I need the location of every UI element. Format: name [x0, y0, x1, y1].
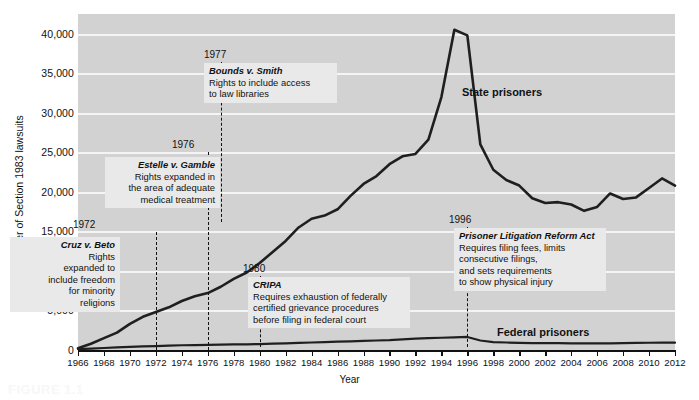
figure-caption: FIGURE 1.1 [8, 382, 84, 397]
gridline [78, 34, 675, 36]
gridline [78, 113, 675, 115]
x-tick-label: 1976 [197, 357, 218, 368]
event-annotation-bounds: Bounds v. SmithRights to include accesst… [204, 63, 337, 103]
x-tick [571, 350, 572, 356]
event-marker-line-cruz [156, 232, 157, 350]
x-tick [493, 350, 494, 356]
event-title-plra: Prisoner Litigation Reform Act [459, 230, 601, 242]
event-annotation-plra: Prisoner Litigation Reform ActRequires f… [454, 228, 606, 291]
x-tick-label: 1982 [275, 357, 296, 368]
x-tick [415, 350, 416, 356]
series-label-state-prisoners: State prisoners [462, 86, 542, 98]
x-tick-label: 1998 [483, 357, 504, 368]
x-tick-label: 2012 [664, 357, 685, 368]
event-year-cruz: 1972 [73, 219, 95, 230]
x-tick [234, 350, 235, 356]
x-tick-label: 1968 [93, 357, 114, 368]
event-body-line: before filing in federal court [253, 314, 405, 326]
x-tick-label: 2000 [509, 357, 530, 368]
y-tick-label: 30,000 [22, 107, 74, 119]
event-body-line: religions [15, 297, 115, 309]
chart-figure: 05,00010,00015,00020,00025,00030,00035,0… [0, 0, 699, 400]
event-annotation-estelle: Estelle v. GambleRights expanded inthe a… [105, 157, 220, 208]
x-tick-label: 1978 [223, 357, 244, 368]
event-title-estelle: Estelle v. Gamble [110, 159, 215, 171]
x-tick [260, 350, 261, 356]
event-title-cruz: Cruz v. Beto [15, 239, 115, 251]
event-body-line: certified grievance procedures [253, 302, 405, 314]
x-tick-label: 2010 [638, 357, 659, 368]
x-tick [623, 350, 624, 356]
x-tick [338, 350, 339, 356]
x-tick-label: 2002 [535, 357, 556, 368]
event-year-cripa: 1980 [243, 263, 265, 274]
x-tick [675, 350, 676, 356]
gridline [78, 73, 675, 75]
event-body-line: Rights [15, 251, 115, 263]
event-body-line: expanded to [15, 262, 115, 274]
x-tick [78, 350, 79, 356]
gridline [78, 152, 675, 154]
x-tick-label: 1980 [249, 357, 270, 368]
x-tick [104, 350, 105, 356]
event-annotation-cruz: Cruz v. BetoRightsexpanded toinclude fre… [10, 237, 120, 312]
x-tick-label: 1990 [379, 357, 400, 368]
event-year-estelle: 1976 [172, 139, 194, 150]
x-tick-label: 1972 [145, 357, 166, 368]
x-tick [467, 350, 468, 356]
series-label-federal-prisoners: Federal prisoners [497, 326, 589, 338]
y-tick-label: 35,000 [22, 67, 74, 79]
x-tick-label: 2006 [586, 357, 607, 368]
x-tick [519, 350, 520, 356]
event-annotation-cripa: CRIPARequires exhaustion of federallycer… [248, 277, 410, 328]
x-tick [130, 350, 131, 356]
x-tick [545, 350, 546, 356]
x-tick [649, 350, 650, 356]
x-tick-label: 1984 [301, 357, 322, 368]
x-tick-label: 1970 [119, 357, 140, 368]
event-year-plra: 1996 [449, 214, 471, 225]
event-body-line: the area of adequate [110, 182, 215, 194]
event-body-line: Requires filing fees, limits [459, 242, 601, 254]
event-body-line: medical treatment [110, 194, 215, 206]
x-tick [156, 350, 157, 356]
x-tick-label: 1986 [327, 357, 348, 368]
event-body-line: consecutive filings, [459, 253, 601, 265]
x-tick-label: 1996 [457, 357, 478, 368]
x-tick-label: 1966 [67, 357, 88, 368]
x-tick-label: 1974 [171, 357, 192, 368]
y-tick-label: 0 [22, 344, 74, 356]
x-tick-label: 1992 [405, 357, 426, 368]
x-tick [389, 350, 390, 356]
event-year-bounds: 1977 [204, 49, 226, 60]
x-tick [441, 350, 442, 356]
x-tick [597, 350, 598, 356]
event-body-line: Rights expanded in [110, 171, 215, 183]
event-body-line: Requires exhaustion of federally [253, 291, 405, 303]
event-body-line: include freedom [15, 274, 115, 286]
event-title-cripa: CRIPA [253, 279, 405, 291]
x-axis-line [78, 350, 675, 352]
x-tick-label: 1988 [353, 357, 374, 368]
y-tick-label: 25,000 [22, 146, 74, 158]
x-tick [286, 350, 287, 356]
x-tick-label: 2004 [561, 357, 582, 368]
event-body-line: for minority [15, 285, 115, 297]
event-body-line: and sets requirements [459, 265, 601, 277]
x-tick [182, 350, 183, 356]
event-title-bounds: Bounds v. Smith [209, 65, 332, 77]
event-body-line: to show physical injury [459, 276, 601, 288]
x-tick-label: 2008 [612, 357, 633, 368]
y-tick-label: 40,000 [22, 28, 74, 40]
event-body-line: to law libraries [209, 88, 332, 100]
x-tick [208, 350, 209, 356]
x-tick [364, 350, 365, 356]
x-tick-label: 1994 [431, 357, 452, 368]
event-body-line: Rights to include access [209, 77, 332, 89]
x-axis-title: Year [0, 374, 699, 385]
y-tick-label: 15,000 [22, 225, 74, 237]
y-tick-label: 20,000 [22, 186, 74, 198]
x-tick [312, 350, 313, 356]
